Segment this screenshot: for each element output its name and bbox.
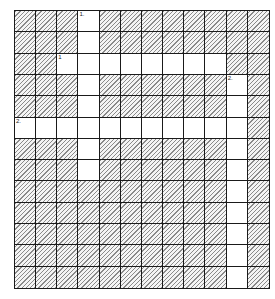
blocked-cell xyxy=(142,267,163,288)
blocked-cell xyxy=(205,245,226,266)
answer-cell[interactable] xyxy=(227,203,248,224)
blocked-cell xyxy=(142,75,163,96)
blocked-cell xyxy=(121,224,142,245)
blocked-cell xyxy=(184,203,205,224)
answer-cell[interactable] xyxy=(78,32,99,53)
blocked-cell xyxy=(121,75,142,96)
answer-cell[interactable] xyxy=(78,139,99,160)
blocked-cell xyxy=(248,75,269,96)
blocked-cell xyxy=(57,181,78,202)
blocked-cell xyxy=(163,75,184,96)
blocked-cell xyxy=(248,245,269,266)
answer-cell[interactable] xyxy=(227,245,248,266)
blocked-cell xyxy=(15,75,36,96)
blocked-cell xyxy=(205,203,226,224)
answer-cell[interactable] xyxy=(121,54,142,75)
answer-cell[interactable] xyxy=(78,96,99,117)
blocked-cell xyxy=(184,75,205,96)
blocked-cell xyxy=(142,245,163,266)
blocked-cell xyxy=(100,203,121,224)
blocked-cell xyxy=(163,267,184,288)
blocked-cell xyxy=(57,32,78,53)
answer-cell[interactable] xyxy=(227,96,248,117)
blocked-cell xyxy=(205,139,226,160)
blocked-cell xyxy=(78,203,99,224)
blocked-cell xyxy=(15,181,36,202)
blocked-cell xyxy=(248,224,269,245)
blocked-cell xyxy=(57,139,78,160)
answer-cell[interactable] xyxy=(227,224,248,245)
clue-number: 1 xyxy=(58,54,61,61)
answer-cell[interactable] xyxy=(227,118,248,139)
blocked-cell xyxy=(163,181,184,202)
blocked-cell xyxy=(36,54,57,75)
blocked-cell xyxy=(184,181,205,202)
answer-cell[interactable] xyxy=(142,54,163,75)
blocked-cell xyxy=(248,267,269,288)
blocked-cell xyxy=(100,75,121,96)
blocked-cell xyxy=(184,224,205,245)
answer-cell[interactable] xyxy=(205,54,226,75)
blocked-cell xyxy=(142,181,163,202)
blocked-cell xyxy=(100,181,121,202)
blocked-cell xyxy=(227,54,248,75)
blocked-cell xyxy=(121,96,142,117)
answer-cell[interactable] xyxy=(184,118,205,139)
answer-cell[interactable] xyxy=(227,181,248,202)
blocked-cell xyxy=(248,139,269,160)
blocked-cell xyxy=(15,245,36,266)
answer-cell[interactable] xyxy=(163,54,184,75)
blocked-cell xyxy=(78,181,99,202)
blocked-cell xyxy=(100,267,121,288)
blocked-cell xyxy=(121,160,142,181)
blocked-cell xyxy=(248,96,269,117)
blocked-cell xyxy=(248,11,269,32)
blocked-cell xyxy=(78,224,99,245)
blocked-cell xyxy=(142,224,163,245)
blocked-cell xyxy=(142,32,163,53)
blocked-cell xyxy=(36,75,57,96)
answer-cell[interactable]: 1. xyxy=(78,11,99,32)
blocked-cell xyxy=(163,160,184,181)
blocked-cell xyxy=(184,32,205,53)
answer-cell[interactable] xyxy=(78,118,99,139)
clue-number: 1. xyxy=(79,11,84,18)
answer-cell[interactable]: 2. xyxy=(15,118,36,139)
blocked-cell xyxy=(184,160,205,181)
answer-cell[interactable] xyxy=(36,118,57,139)
answer-cell[interactable] xyxy=(142,118,163,139)
answer-cell[interactable] xyxy=(78,75,99,96)
blocked-cell xyxy=(57,203,78,224)
blocked-cell xyxy=(205,181,226,202)
answer-cell[interactable] xyxy=(100,54,121,75)
answer-cell[interactable] xyxy=(184,54,205,75)
blocked-cell xyxy=(163,245,184,266)
blocked-cell xyxy=(205,160,226,181)
answer-cell[interactable] xyxy=(78,54,99,75)
crossword-grid: 1.12.2. xyxy=(14,10,270,289)
answer-cell[interactable] xyxy=(227,267,248,288)
blocked-cell xyxy=(100,245,121,266)
answer-cell[interactable] xyxy=(205,118,226,139)
answer-cell[interactable]: 1 xyxy=(57,54,78,75)
answer-cell[interactable] xyxy=(57,118,78,139)
blocked-cell xyxy=(163,139,184,160)
blocked-cell xyxy=(36,11,57,32)
blocked-cell xyxy=(205,32,226,53)
answer-cell[interactable] xyxy=(78,160,99,181)
blocked-cell xyxy=(57,267,78,288)
blocked-cell xyxy=(121,245,142,266)
clue-number: 2. xyxy=(16,118,21,125)
answer-cell[interactable] xyxy=(227,139,248,160)
blocked-cell xyxy=(36,139,57,160)
answer-cell[interactable] xyxy=(100,118,121,139)
blocked-cell xyxy=(15,267,36,288)
answer-cell[interactable]: 2. xyxy=(227,75,248,96)
blocked-cell xyxy=(121,203,142,224)
answer-cell[interactable] xyxy=(163,118,184,139)
answer-cell[interactable] xyxy=(121,118,142,139)
blocked-cell xyxy=(36,181,57,202)
blocked-cell xyxy=(78,245,99,266)
blocked-cell xyxy=(163,11,184,32)
answer-cell[interactable] xyxy=(227,160,248,181)
